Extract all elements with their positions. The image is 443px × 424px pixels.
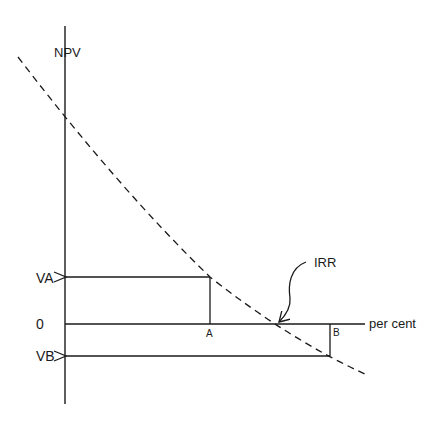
y-axis-label: NPV <box>54 46 81 59</box>
zero-label: 0 <box>36 317 44 331</box>
point-a-label: A <box>206 329 213 339</box>
point-b-label: B <box>333 328 340 338</box>
va-label: VA <box>36 271 54 285</box>
irr-label: IRR <box>314 256 336 269</box>
npv-curve-dashed <box>18 57 365 374</box>
x-axis-label: per cent <box>369 317 416 330</box>
npv-irr-diagram <box>0 0 443 424</box>
vb-label: VB <box>36 349 55 363</box>
irr-pointer-arrow <box>279 262 306 322</box>
